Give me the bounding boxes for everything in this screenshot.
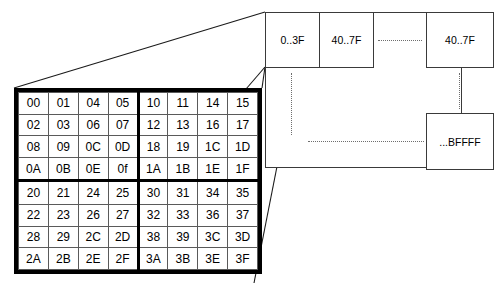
table-row: 2A 2B 2E 2F 3A 3B 3E 3F [19,248,258,270]
table-row: 20 21 24 25 30 31 34 35 [19,181,258,204]
table-row: 02 03 06 07 12 13 16 17 [19,114,258,136]
hex-cell: 2A [19,248,49,270]
hex-cell: 2B [48,248,78,270]
table-row: 00 01 04 05 10 11 14 15 [19,93,258,115]
memory-block-2: 40..7F [426,12,494,68]
hex-cell: 3E [198,248,228,270]
hex-cell: 02 [19,114,49,136]
vertical-ellipsis-left [291,73,293,135]
hex-cell: 0D [108,136,138,158]
hex-cell: 15 [228,93,258,115]
address-block-grid: 00 01 04 05 10 11 14 15 02 03 06 07 12 1… [14,88,262,274]
hex-cell: 39 [168,226,198,248]
hex-cell: 0A [19,158,49,181]
memory-block-1: 40..7F [319,12,374,68]
hex-cell: 1A [138,158,168,181]
hex-cell: 3D [228,226,258,248]
horizontal-ellipsis-top [378,40,422,42]
hex-cell: 27 [108,204,138,226]
hex-cell: 18 [138,136,168,158]
hex-cell: 04 [78,93,108,115]
hex-cell: 20 [19,181,49,204]
memory-block-3: ...BFFFF [426,113,494,170]
hex-cell: 3C [198,226,228,248]
hex-cell: 37 [228,204,258,226]
hex-cell: 32 [138,204,168,226]
hex-cell: 3A [138,248,168,270]
hex-cell: 33 [168,204,198,226]
hex-cell: 0C [78,136,108,158]
hex-cell: 00 [19,93,49,115]
table-row: 22 23 26 27 32 33 36 37 [19,204,258,226]
hex-grid-table: 00 01 04 05 10 11 14 15 02 03 06 07 12 1… [18,92,258,270]
hex-cell: 01 [48,93,78,115]
hex-cell: 1F [228,158,258,181]
hex-cell: 16 [198,114,228,136]
hex-cell: 3F [228,248,258,270]
hex-cell: 35 [228,181,258,204]
hex-cell: 38 [138,226,168,248]
hex-cell: 36 [198,204,228,226]
hex-cell: 1C [198,136,228,158]
vertical-ellipsis-right [459,73,461,109]
table-row: 28 29 2C 2D 38 39 3C 3D [19,226,258,248]
hex-cell: 19 [168,136,198,158]
hex-cell: 14 [198,93,228,115]
hex-cell: 0f [108,158,138,181]
hex-cell: 17 [228,114,258,136]
hex-cell: 22 [19,204,49,226]
hex-cell: 0B [48,158,78,181]
hex-cell: 1E [198,158,228,181]
table-row: 08 09 0C 0D 18 19 1C 1D [19,136,258,158]
hex-cell: 2D [108,226,138,248]
hex-cell: 10 [138,93,168,115]
hex-cell: 07 [108,114,138,136]
hex-cell: 24 [78,181,108,204]
hex-cell: 1D [228,136,258,158]
hex-cell: 09 [48,136,78,158]
hex-cell: 08 [19,136,49,158]
hex-cell: 23 [48,204,78,226]
hex-cell: 3B [168,248,198,270]
hex-cell: 05 [108,93,138,115]
table-row: 0A 0B 0E 0f 1A 1B 1E 1F [19,158,258,181]
hex-cell: 25 [108,181,138,204]
hex-cell: 2E [78,248,108,270]
hex-cell: 12 [138,114,168,136]
hex-cell: 13 [168,114,198,136]
hex-cell: 30 [138,181,168,204]
hex-cell: 1B [168,158,198,181]
hex-grid-body: 00 01 04 05 10 11 14 15 02 03 06 07 12 1… [19,93,258,270]
hex-cell: 28 [19,226,49,248]
hex-cell: 31 [168,181,198,204]
hex-cell: 03 [48,114,78,136]
top-leader-line [14,12,265,88]
horizontal-ellipsis-bottom [308,141,424,143]
hex-cell: 34 [198,181,228,204]
hex-cell: 29 [48,226,78,248]
hex-cell: 26 [78,204,108,226]
hex-cell: 2F [108,248,138,270]
hex-cell: 11 [168,93,198,115]
hex-cell: 0E [78,158,108,181]
memory-block-0: 0..3F [265,12,320,68]
hex-cell: 06 [78,114,108,136]
memory-map-panel: 0..3F 40..7F 40..7F ...BFFFF [265,12,462,168]
hex-cell: 21 [48,181,78,204]
hex-cell: 2C [78,226,108,248]
